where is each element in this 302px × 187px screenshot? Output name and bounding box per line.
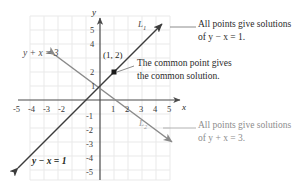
x-tick--4: -4	[28, 105, 35, 114]
line-label-L2-sub: 2	[144, 123, 147, 130]
y-tick-2: 2	[90, 68, 94, 77]
equation-label-y-minus-x-1: y − x = 1	[32, 157, 66, 167]
y-tick--3: -3	[86, 140, 93, 149]
annotation-top-right: All points give solutions of y − x = 1.	[198, 20, 291, 42]
annotation-bottom-right-line1: All points give solutions	[198, 121, 291, 131]
equation-label-y-plus-x-3: y + x = 3	[23, 49, 59, 59]
figure-container: y x -5 -4 -3 -2 1 2 3 4 5 5 4 2 1 -1 -2 …	[0, 0, 302, 187]
y-axis-label: y	[92, 8, 96, 17]
annotation-common-point-line2: the common solution.	[137, 72, 232, 82]
x-tick-3: 3	[139, 105, 143, 114]
annotation-common-point-line1: The common point gives	[137, 59, 232, 69]
y-tick-5: 5	[90, 26, 94, 35]
x-tick--2: -2	[58, 105, 65, 114]
line-label-L1-sub: 1	[143, 24, 146, 31]
annotation-top-right-line2: of y − x = 1.	[198, 33, 291, 43]
x-tick--5: -5	[13, 105, 20, 114]
y-tick--2: -2	[86, 126, 93, 135]
x-tick-2: 2	[125, 105, 129, 114]
annotation-bottom-right: All points give solutions of y + x = 3.	[198, 121, 291, 143]
intersection-point-marker	[112, 70, 117, 75]
line-label-L2: L2	[139, 119, 147, 130]
y-tick--4: -4	[86, 154, 93, 163]
x-tick-1: 1	[111, 105, 115, 114]
y-tick-1: 1	[91, 82, 95, 91]
annotation-common-point: The common point gives the common soluti…	[137, 59, 232, 81]
x-tick-4: 4	[153, 105, 157, 114]
annotation-top-right-line1: All points give solutions	[198, 20, 291, 30]
x-tick--3: -3	[43, 105, 50, 114]
y-tick--5: -5	[86, 168, 93, 177]
intersection-point-label: (1, 2)	[103, 51, 123, 60]
y-tick-4: 4	[90, 40, 94, 49]
line-label-L1: L1	[138, 20, 146, 31]
annotation-bottom-right-line2: of y + x = 3.	[198, 134, 291, 144]
x-tick-5: 5	[167, 105, 171, 114]
y-tick--1: -1	[86, 112, 93, 121]
x-axis-label: x	[182, 103, 186, 112]
